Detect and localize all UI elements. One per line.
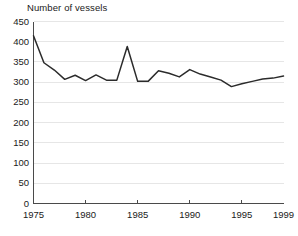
x-axis-tick-label: 1985 [127, 209, 148, 220]
y-axis-tick-label: 250 [13, 96, 29, 107]
y-axis-tick-label: 150 [13, 137, 29, 148]
x-axis-tick-labels: 197519801985199019951999 [23, 209, 294, 220]
y-axis-tick-label: 350 [13, 56, 29, 67]
y-axis-tick-label: 100 [13, 157, 29, 168]
line-chart-plot: 050100150200250300350400450 197519801985… [0, 0, 298, 236]
y-axis-tick-label: 0 [24, 198, 29, 209]
y-axis-tick-labels: 050100150200250300350400450 [13, 16, 29, 209]
y-axis-tick-label: 400 [13, 36, 29, 47]
y-axis-tick-label: 50 [18, 177, 29, 188]
data-series-line [34, 36, 284, 87]
x-axis-tick-label: 1975 [23, 209, 44, 220]
y-axis-tick-label: 200 [13, 117, 29, 128]
x-axis-tick-label: 1980 [75, 209, 96, 220]
x-axis-tick-label: 1995 [231, 209, 252, 220]
chart-container: Number of vessels 0501001502002503003504… [0, 0, 298, 236]
x-axis-tick-label: 1999 [273, 209, 294, 220]
x-axis-tick-label: 1990 [179, 209, 200, 220]
y-axis-tick-label: 300 [13, 76, 29, 87]
y-axis-tick-label: 450 [13, 16, 29, 27]
gridlines [34, 22, 284, 184]
